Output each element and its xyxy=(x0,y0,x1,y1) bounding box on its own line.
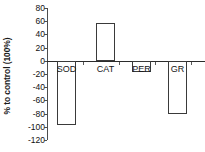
plot-area: 80 60 40 20 0 -20 -40 -60 -80 -100 -120 xyxy=(17,8,205,148)
y-tick-label: -60 xyxy=(17,96,45,105)
y-tick-label: 80 xyxy=(17,4,45,13)
y-axis-tick xyxy=(44,140,47,141)
x-category-label-gr: GR xyxy=(164,65,191,74)
y-tick-label: -80 xyxy=(17,109,45,118)
y-axis-line xyxy=(47,8,48,140)
y-axis-tick xyxy=(44,127,47,128)
y-tick-label: -40 xyxy=(17,83,45,92)
y-axis-tick xyxy=(44,21,47,22)
y-axis-tick xyxy=(44,114,47,115)
y-tick-label: 60 xyxy=(17,17,45,26)
y-tick-label: 0 xyxy=(17,57,45,66)
x-category-label-per: PER xyxy=(128,65,155,74)
y-tick-label: 40 xyxy=(17,30,45,39)
y-tick-label: -120 xyxy=(17,136,45,145)
bar-chart: % to control (100%) 80 60 40 20 0 -20 -4… xyxy=(0,0,205,152)
y-axis-tick-labels: 80 60 40 20 0 -20 -40 -60 -80 -100 -120 xyxy=(17,8,45,140)
x-axis-tick xyxy=(191,62,192,65)
x-axis-tick xyxy=(83,62,84,65)
y-tick-label: 20 xyxy=(17,43,45,52)
x-axis-tick xyxy=(155,62,156,65)
y-axis-tick xyxy=(44,100,47,101)
y-axis-label: % to control (100%) xyxy=(0,0,14,152)
bar-cat xyxy=(96,23,115,61)
y-tick-label: -20 xyxy=(17,70,45,79)
y-axis-tick xyxy=(44,87,47,88)
x-category-label-cat: CAT xyxy=(92,65,119,74)
y-axis-tick xyxy=(44,74,47,75)
y-axis-tick xyxy=(44,48,47,49)
y-tick-label: -100 xyxy=(17,123,45,132)
axes: SOD CAT PER GR xyxy=(47,8,205,140)
y-axis-tick xyxy=(44,34,47,35)
y-axis-tick xyxy=(44,8,47,9)
x-category-label-sod: SOD xyxy=(53,65,80,74)
x-axis-tick xyxy=(119,62,120,65)
